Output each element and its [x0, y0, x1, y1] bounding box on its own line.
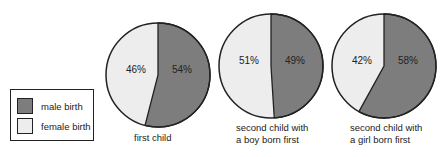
caption-line: second child with	[350, 122, 422, 134]
legend-item-female: female birth	[17, 118, 91, 134]
legend-item-male: male birth	[17, 98, 83, 114]
pie-boy-first: 49%51%	[216, 11, 326, 121]
female-swatch	[17, 118, 33, 134]
caption-line: first child	[134, 132, 171, 144]
male-swatch	[17, 98, 33, 114]
male-percent-label: 58%	[398, 55, 418, 66]
female-percent-label: 42%	[352, 55, 372, 66]
caption-line: second child with	[236, 122, 308, 134]
male-percent-label: 49%	[285, 55, 305, 66]
legend-label-female: female birth	[41, 121, 91, 132]
legend: male birth female birth	[10, 89, 94, 141]
pie-first-child: 54%46%	[103, 20, 213, 130]
caption-line: a girl born first	[350, 134, 422, 146]
female-percent-label: 46%	[126, 64, 146, 75]
legend-label-male: male birth	[41, 101, 83, 112]
caption-line: a boy born first	[236, 134, 308, 146]
pie-girl-first: 58%42%	[329, 11, 439, 121]
female-percent-label: 51%	[239, 55, 259, 66]
caption-boy-first: second child with a boy born first	[236, 122, 308, 146]
caption-first-child: first child	[134, 132, 171, 144]
male-percent-label: 54%	[172, 64, 192, 75]
caption-girl-first: second child with a girl born first	[350, 122, 422, 146]
